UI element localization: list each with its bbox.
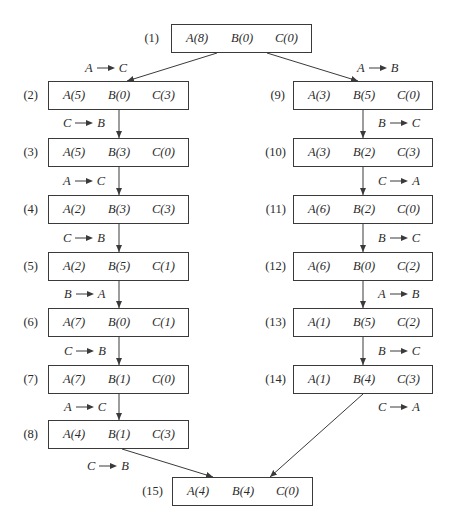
pour-arrow-icon [97, 64, 115, 72]
jug-c-value: C(2) [397, 315, 420, 330]
move-to: B [121, 459, 129, 474]
move-label-7-8: A C [64, 400, 106, 414]
move-from: B [378, 231, 386, 246]
move-to: C [97, 174, 105, 189]
jug-a-value: A(3) [308, 88, 330, 103]
arrow-14-to-15 [270, 394, 363, 477]
move-label-5-6: B A [64, 287, 105, 301]
move-from: C [63, 231, 71, 246]
state-box-5: A(2) B(5) C(1) [48, 252, 189, 281]
jug-a-value: A(6) [308, 259, 330, 274]
arrow-1-to-2 [127, 53, 217, 81]
node-number: (13) [246, 315, 286, 330]
pour-arrow-icon [390, 234, 408, 242]
jug-c-value: C(2) [397, 259, 420, 274]
jug-a-value: A(4) [63, 427, 85, 442]
jug-b-value: B(5) [353, 88, 375, 103]
move-label-10-11: C A [378, 174, 420, 188]
move-label-9-10: B C [378, 116, 420, 130]
move-label-1-2: A C [85, 61, 127, 75]
state-box-10: A(3) B(2) C(3) [293, 138, 433, 167]
move-from: A [357, 61, 365, 76]
move-label-1-9: A B [357, 61, 398, 75]
pour-arrow-icon [99, 462, 117, 470]
jug-c-value: C(0) [275, 31, 298, 46]
move-to: C [119, 61, 127, 76]
move-label-11-12: B C [378, 231, 420, 245]
state-box-12: A(6) B(0) C(2) [293, 252, 433, 281]
move-label-6-7: C B [64, 344, 106, 358]
pour-arrow-icon [390, 290, 408, 298]
jug-c-value: C(1) [152, 259, 175, 274]
move-to: C [98, 400, 106, 415]
jug-b-value: B(2) [353, 145, 375, 160]
pour-arrow-icon [75, 177, 93, 185]
move-from: C [87, 459, 95, 474]
jug-b-value: B(4) [232, 484, 254, 499]
node-number: (8) [0, 427, 38, 442]
pour-arrow-icon [390, 119, 408, 127]
jug-a-value: A(5) [63, 145, 85, 160]
move-from: A [85, 61, 93, 76]
node-number: (2) [0, 88, 38, 103]
move-to: C [412, 231, 420, 246]
node-number: (5) [0, 259, 38, 274]
pour-arrow-icon [390, 177, 408, 185]
move-from: B [378, 344, 386, 359]
move-from: C [378, 400, 386, 415]
move-to: C [412, 116, 420, 131]
jug-c-value: C(0) [397, 88, 420, 103]
move-label-14-15: C A [378, 400, 420, 414]
move-from: C [378, 174, 386, 189]
move-to: A [412, 400, 420, 415]
move-to: C [412, 344, 420, 359]
pour-arrow-icon [390, 347, 408, 355]
jug-c-value: C(3) [152, 88, 175, 103]
jug-a-value: A(4) [187, 484, 209, 499]
node-number: (11) [246, 202, 286, 217]
state-box-7: A(7) B(1) C(0) [48, 365, 189, 394]
jug-a-value: A(1) [308, 372, 330, 387]
move-to: A [412, 174, 420, 189]
node-number: (1) [119, 31, 159, 46]
jug-b-value: B(5) [353, 315, 375, 330]
jug-b-value: B(0) [108, 315, 130, 330]
jug-b-value: B(0) [353, 259, 375, 274]
pour-arrow-icon [75, 234, 93, 242]
state-box-8: A(4) B(1) C(3) [48, 420, 189, 449]
move-label-13-14: B C [378, 344, 420, 358]
jug-b-value: B(2) [353, 202, 375, 217]
state-box-14: A(1) B(4) C(3) [293, 365, 433, 394]
move-to: B [98, 344, 106, 359]
move-from: A [64, 400, 72, 415]
jug-c-value: C(3) [152, 202, 175, 217]
jug-c-value: C(1) [152, 315, 175, 330]
move-label-12-13: A B [378, 287, 419, 301]
move-label-4-5: C B [63, 231, 105, 245]
move-label-3-4: A C [63, 174, 105, 188]
move-label-8-15: C B [87, 459, 129, 473]
node-number: (4) [0, 202, 38, 217]
move-from: B [64, 287, 72, 302]
jug-a-value: A(8) [186, 31, 208, 46]
move-from: C [64, 344, 72, 359]
pour-arrow-icon [76, 290, 94, 298]
pour-arrow-icon [369, 64, 387, 72]
arrow-1-to-9 [267, 53, 358, 81]
node-number: (12) [246, 259, 286, 274]
move-label-2-3: C B [63, 116, 105, 130]
jug-b-value: B(4) [353, 372, 375, 387]
jug-b-value: B(0) [231, 31, 253, 46]
jug-a-value: A(2) [63, 202, 85, 217]
jug-c-value: C(0) [152, 372, 175, 387]
state-box-11: A(6) B(2) C(0) [293, 195, 433, 224]
state-box-3: A(5) B(3) C(0) [48, 138, 189, 167]
jug-a-value: A(6) [308, 202, 330, 217]
jug-b-value: B(0) [108, 88, 130, 103]
jug-c-value: C(3) [152, 427, 175, 442]
node-number: (9) [245, 88, 285, 103]
state-box-13: A(1) B(5) C(2) [293, 308, 433, 337]
node-number: (15) [123, 484, 163, 499]
pour-arrow-icon [76, 347, 94, 355]
node-number: (3) [0, 145, 38, 160]
